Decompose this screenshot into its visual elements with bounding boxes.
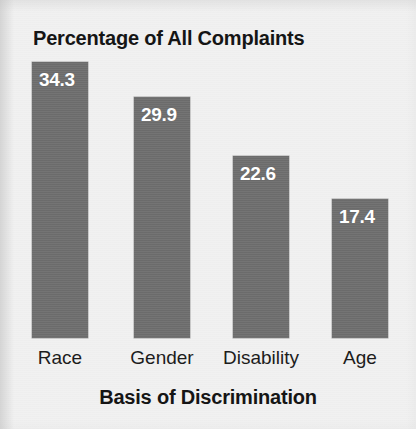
bar-chart-figure: Percentage of All Complaints 34.3 Race 2… bbox=[0, 0, 416, 429]
plot-area: 34.3 Race 29.9 Gender 22.6 Disability 17… bbox=[0, 0, 416, 429]
bar-label-race: Race bbox=[38, 347, 82, 369]
bar-value-race: 34.3 bbox=[39, 69, 75, 91]
bar-label-age: Age bbox=[343, 347, 377, 369]
bar-race: 34.3 bbox=[32, 62, 88, 338]
bar-label-gender: Gender bbox=[130, 347, 193, 369]
bar-age: 17.4 bbox=[332, 199, 388, 338]
bar-label-disability: Disability bbox=[223, 347, 299, 369]
bar-value-age: 17.4 bbox=[339, 206, 375, 228]
bar-group-gender: 29.9 Gender bbox=[134, 97, 190, 338]
x-axis-title: Basis of Discrimination bbox=[0, 386, 416, 409]
bar-gender: 29.9 bbox=[134, 97, 190, 338]
bar-group-race: 34.3 Race bbox=[32, 62, 88, 338]
bar-disability: 22.6 bbox=[233, 156, 289, 338]
bar-group-age: 17.4 Age bbox=[332, 199, 388, 338]
bar-value-disability: 22.6 bbox=[240, 163, 276, 185]
bar-value-gender: 29.9 bbox=[141, 104, 177, 126]
bar-group-disability: 22.6 Disability bbox=[233, 156, 289, 338]
